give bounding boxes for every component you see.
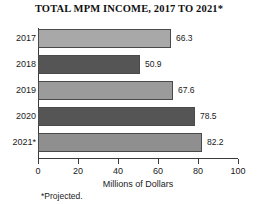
bar-row: 201967.6 — [0, 81, 258, 100]
bar-2017[interactable] — [38, 29, 171, 48]
category-label-2020: 2020 — [0, 107, 36, 126]
bar-value-2018: 50.9 — [145, 55, 162, 74]
x-tick-label-40: 40 — [103, 166, 133, 176]
x-tick-label-80: 80 — [183, 166, 213, 176]
category-label-2021: 2021* — [0, 133, 36, 152]
category-label-2017: 2017 — [0, 29, 36, 48]
x-tick — [238, 159, 239, 164]
bar-value-2017: 66.3 — [176, 29, 193, 48]
x-tick — [38, 159, 39, 164]
bar-value-2021: 82.2 — [207, 133, 224, 152]
category-label-2019: 2019 — [0, 81, 36, 100]
bar-2021[interactable] — [38, 133, 202, 152]
x-tick-label-60: 60 — [143, 166, 173, 176]
bar-2020[interactable] — [38, 107, 195, 126]
plot-area: 201766.3201850.9201967.6202078.52021*82.… — [0, 0, 258, 204]
x-axis-title: Millions of Dollars — [38, 179, 238, 189]
x-tick-label-0: 0 — [23, 166, 53, 176]
x-tick — [118, 159, 119, 164]
bar-2019[interactable] — [38, 81, 173, 100]
bar-value-2019: 67.6 — [178, 81, 195, 100]
x-tick-label-20: 20 — [63, 166, 93, 176]
x-tick — [158, 159, 159, 164]
x-tick-label-100: 100 — [223, 166, 253, 176]
chart-container: TOTAL MPM INCOME, 2017 TO 2021* 201766.3… — [0, 0, 258, 204]
x-axis-line — [38, 158, 238, 159]
bar-row: 201850.9 — [0, 55, 258, 74]
x-tick — [78, 159, 79, 164]
bar-row: 2021*82.2 — [0, 133, 258, 152]
footnote: *Projected. — [41, 191, 83, 201]
x-tick — [198, 159, 199, 164]
bar-2018[interactable] — [38, 55, 140, 74]
bar-row: 201766.3 — [0, 29, 258, 48]
bar-value-2020: 78.5 — [200, 107, 217, 126]
category-label-2018: 2018 — [0, 55, 36, 74]
bar-row: 202078.5 — [0, 107, 258, 126]
